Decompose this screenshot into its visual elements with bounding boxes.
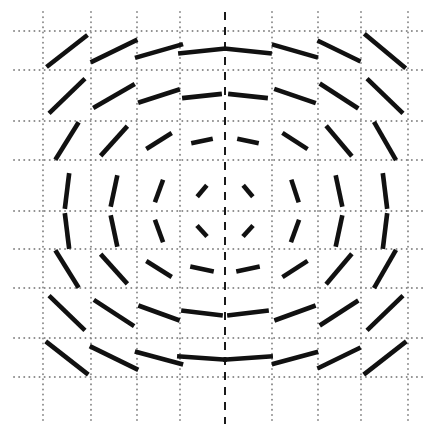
plot-canvas — [0, 0, 435, 436]
shear-whisker-figure — [0, 0, 435, 436]
